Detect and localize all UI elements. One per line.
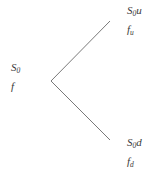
up-option-subscript: u [130,28,134,37]
root-asset-price: S0 [11,60,20,79]
binomial-tree-figure: S0 f S0u fu S0d fd [0,0,162,181]
up-node-label: S0u fu [127,3,142,40]
down-branch-line [51,81,110,140]
root-option-value: f [11,79,20,98]
root-asset-subscript: 0 [17,66,21,75]
down-option-value: fd [127,154,142,173]
down-asset-factor: d [136,136,142,148]
root-node-label: S0 f [11,60,20,97]
up-asset-factor: u [136,4,142,16]
up-option-value: fu [127,22,142,41]
root-option-symbol: f [11,80,14,92]
up-branch-line [51,21,110,81]
down-option-subscript: d [130,160,134,169]
down-node-label: S0d fd [127,135,142,172]
up-asset-price: S0u [127,3,142,22]
down-asset-price: S0d [127,135,142,154]
